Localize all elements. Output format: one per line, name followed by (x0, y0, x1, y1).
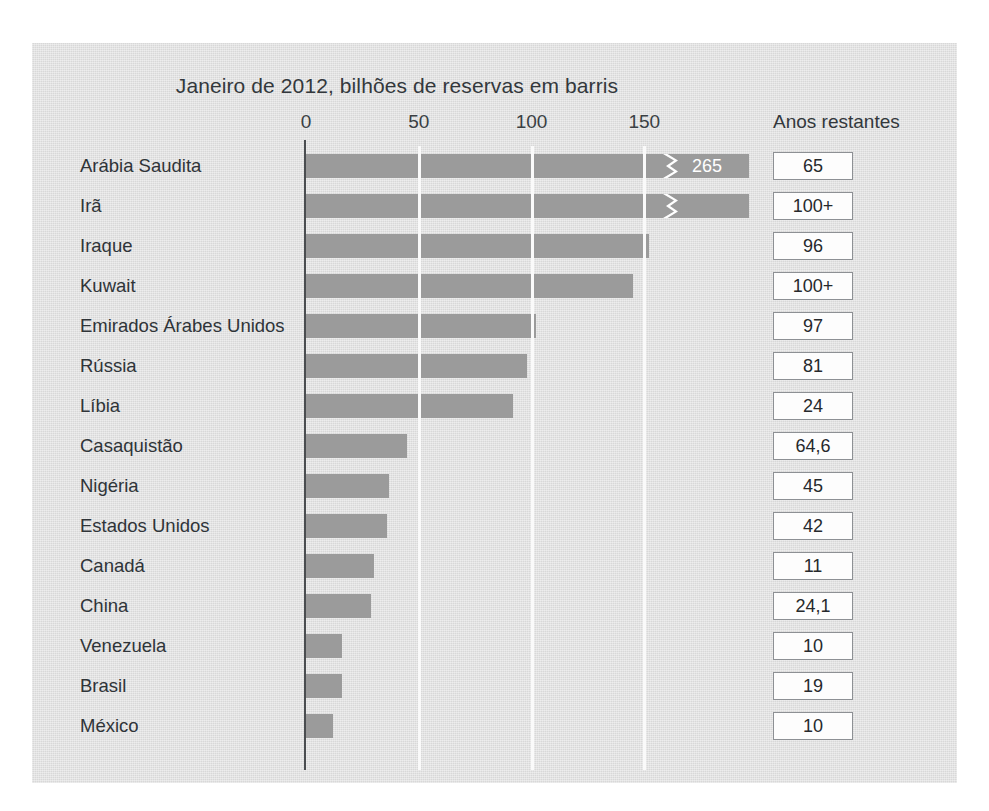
category-label: Emirados Árabes Unidos (80, 306, 285, 346)
category-label: Kuwait (80, 266, 136, 306)
chart-row: Kuwait100+ (32, 266, 957, 306)
chart-row: Emirados Árabes Unidos97 (32, 306, 957, 346)
chart-panel: Janeiro de 2012, bilhões de reservas em … (32, 43, 957, 783)
gridline-50 (418, 146, 421, 770)
chart-row: China24,1 (32, 586, 957, 626)
chart-row: Brasil19 (32, 666, 957, 706)
years-remaining-box: 24 (773, 392, 853, 420)
years-remaining-box: 64,6 (773, 432, 853, 460)
category-label: China (80, 586, 128, 626)
bar (306, 674, 342, 698)
bar (306, 394, 513, 418)
bar (306, 314, 536, 338)
chart-row: Irã100+ (32, 186, 957, 226)
category-label: Brasil (80, 666, 126, 706)
bar (306, 434, 407, 458)
chart-row: Venezuela10 (32, 626, 957, 666)
gridline-100 (531, 146, 534, 770)
years-remaining-box: 100+ (773, 272, 853, 300)
years-remaining-box: 11 (773, 552, 853, 580)
bar (306, 194, 749, 218)
bar (306, 154, 749, 178)
chart-row: Arábia Saudita26565 (32, 146, 957, 186)
years-column-header: Anos restantes (773, 111, 900, 133)
chart-row: Iraque96 (32, 226, 957, 266)
x-tick-label-100: 100 (516, 111, 548, 133)
years-remaining-box: 81 (773, 352, 853, 380)
bar-value-label: 265 (692, 154, 722, 178)
gridline-150 (643, 146, 646, 770)
chart-page: Janeiro de 2012, bilhões de reservas em … (0, 0, 989, 811)
category-label: Iraque (80, 226, 132, 266)
chart-row: Casaquistão64,6 (32, 426, 957, 466)
chart-row: Canadá11 (32, 546, 957, 586)
years-remaining-box: 96 (773, 232, 853, 260)
chart-row: México10 (32, 706, 957, 746)
x-tick-label-0: 0 (301, 111, 312, 133)
bar (306, 274, 633, 298)
bar (306, 594, 371, 618)
category-label: Venezuela (80, 626, 166, 666)
years-remaining-box: 65 (773, 152, 853, 180)
category-label: Casaquistão (80, 426, 183, 466)
years-remaining-box: 100+ (773, 192, 853, 220)
bar (306, 474, 389, 498)
years-remaining-box: 19 (773, 672, 853, 700)
x-tick-label-50: 50 (408, 111, 429, 133)
bar (306, 634, 342, 658)
category-label: Rússia (80, 346, 137, 386)
years-remaining-box: 10 (773, 632, 853, 660)
years-remaining-box: 42 (773, 512, 853, 540)
category-label: Canadá (80, 546, 145, 586)
bar (306, 234, 649, 258)
category-label: México (80, 706, 139, 746)
bar (306, 514, 387, 538)
years-remaining-box: 24,1 (773, 592, 853, 620)
category-label: Líbia (80, 386, 120, 426)
chart-row: Líbia24 (32, 386, 957, 426)
bar (306, 554, 374, 578)
years-remaining-box: 45 (773, 472, 853, 500)
years-remaining-box: 10 (773, 712, 853, 740)
chart-title: Janeiro de 2012, bilhões de reservas em … (32, 74, 762, 98)
category-label: Arábia Saudita (80, 146, 201, 186)
bar (306, 714, 333, 738)
chart-row: Rússia81 (32, 346, 957, 386)
x-tick-label-150: 150 (628, 111, 660, 133)
chart-row: Nigéria45 (32, 466, 957, 506)
category-label: Estados Unidos (80, 506, 210, 546)
chart-row: Estados Unidos42 (32, 506, 957, 546)
years-remaining-box: 97 (773, 312, 853, 340)
category-label: Irã (80, 186, 102, 226)
axis-break-icon (661, 194, 679, 218)
axis-break-icon (661, 154, 679, 178)
bar (306, 354, 527, 378)
category-label: Nigéria (80, 466, 139, 506)
bar-rows: Arábia Saudita26565Irã100+Iraque96Kuwait… (32, 140, 957, 783)
plot-area: Arábia Saudita26565Irã100+Iraque96Kuwait… (32, 140, 957, 783)
